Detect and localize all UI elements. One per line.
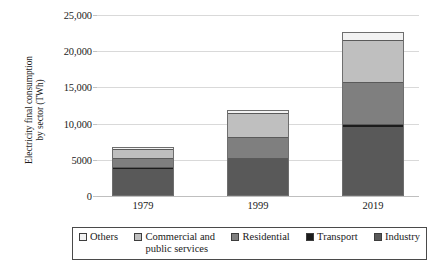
bar-segment	[112, 158, 174, 167]
y-axis-title-line1: Electricity final consumption	[24, 56, 36, 164]
y-axis-tick-label: 20,000	[64, 46, 92, 57]
y-axis-tick-mark	[93, 51, 97, 52]
y-axis-tick-label: 5000	[71, 154, 92, 165]
bar-segment	[227, 159, 289, 196]
bar-segment	[112, 169, 174, 197]
chart-legend: OthersCommercial andpublic servicesResid…	[72, 227, 427, 260]
y-axis-tick-mark	[93, 87, 97, 88]
bar-1999[interactable]	[227, 110, 289, 196]
y-axis-tick-mark	[93, 196, 97, 197]
x-axis-tick-label: 2019	[342, 200, 404, 211]
legend-item-industry[interactable]: Industry	[374, 231, 420, 243]
y-axis-tick-label: 25,000	[64, 10, 92, 21]
bar-segment	[227, 113, 289, 138]
chart-figure: Electricity final consumption by sector …	[0, 0, 440, 273]
bar-1979[interactable]	[112, 147, 174, 196]
bar-segment	[342, 82, 404, 124]
bar-2019[interactable]	[342, 32, 404, 196]
y-axis-tick-mark	[93, 160, 97, 161]
legend-swatch-icon	[231, 233, 239, 241]
legend-item-others[interactable]: Others	[79, 231, 118, 243]
bar-segment	[342, 127, 404, 196]
x-axis-tick-label: 1979	[112, 200, 174, 211]
legend-swatch-icon	[374, 233, 382, 241]
legend-label: Commercial andpublic services	[145, 231, 215, 255]
legend-label: Transport	[317, 231, 357, 243]
legend-label-line2: public services	[145, 243, 215, 255]
x-axis-tick-label: 1999	[227, 200, 289, 211]
bar-segment	[342, 40, 404, 83]
y-axis-title-line2: by sector (TWh)	[35, 56, 47, 164]
y-axis-tick-label: 15,000	[64, 82, 92, 93]
legend-label: Industry	[385, 231, 420, 243]
y-axis-tick-label: 10,000	[64, 118, 92, 129]
plot-area: 0500010,00015,00020,00025,000 1979199920…	[97, 15, 419, 196]
bar-segment	[342, 32, 404, 39]
gridline	[97, 196, 419, 197]
y-axis-tick-mark	[93, 124, 97, 125]
legend-label: Residential	[242, 231, 289, 243]
y-axis-tick-mark	[93, 15, 97, 16]
legend-swatch-icon	[79, 233, 87, 241]
y-axis-title: Electricity final consumption by sector …	[21, 15, 49, 205]
legend-item-commercial-and[interactable]: Commercial andpublic services	[134, 231, 215, 255]
gridline	[97, 15, 419, 16]
legend-item-transport[interactable]: Transport	[306, 231, 357, 243]
bar-segment	[227, 137, 289, 157]
bar-segment	[112, 149, 174, 158]
y-axis-tick-label: 0	[87, 191, 92, 202]
legend-swatch-icon	[306, 233, 314, 241]
legend-swatch-icon	[134, 233, 142, 241]
legend-label: Others	[90, 231, 118, 243]
legend-item-residential[interactable]: Residential	[231, 231, 289, 243]
